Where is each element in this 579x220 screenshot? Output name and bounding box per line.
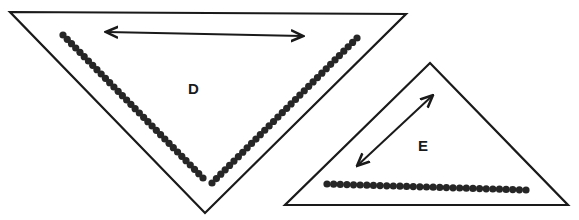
bead (383, 182, 390, 189)
bead (403, 183, 410, 190)
bead (376, 182, 383, 189)
bead (509, 186, 516, 193)
bead (337, 181, 344, 188)
bead (363, 182, 370, 189)
bead (370, 182, 377, 189)
bead (436, 184, 443, 191)
bead (516, 186, 523, 193)
bead (353, 34, 360, 41)
bead (476, 185, 483, 192)
bead (463, 185, 470, 192)
bead (350, 181, 357, 188)
bead (449, 184, 456, 191)
bead (443, 184, 450, 191)
bead (456, 184, 463, 191)
bead (423, 183, 430, 190)
diagram-canvas: D E (0, 0, 579, 220)
figure: D E (0, 0, 579, 220)
bead (522, 186, 529, 193)
bead (496, 186, 503, 193)
bead (199, 174, 206, 181)
triangle-e-label: E (418, 137, 428, 154)
bead (396, 183, 403, 190)
bead (430, 184, 437, 191)
triangle-d-label: D (188, 80, 199, 97)
bead (330, 181, 337, 188)
bead (483, 185, 490, 192)
bead (469, 185, 476, 192)
bead (489, 185, 496, 192)
bead (343, 181, 350, 188)
bead (503, 186, 510, 193)
bead (323, 180, 330, 187)
bead (357, 181, 364, 188)
bead (416, 183, 423, 190)
bead (390, 182, 397, 189)
bead (410, 183, 417, 190)
